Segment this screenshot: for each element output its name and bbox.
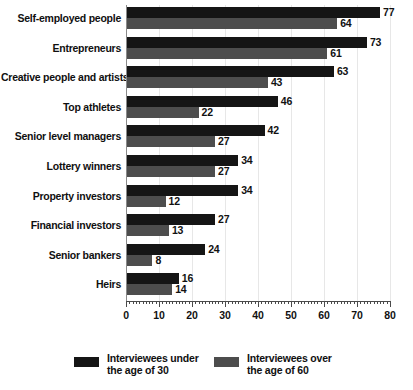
gridline <box>390 5 391 301</box>
x-axis-minor-tick <box>189 301 190 304</box>
x-axis-minor-tick <box>294 301 295 304</box>
x-axis-minor-tick <box>179 301 180 304</box>
bar-group: 4622 <box>126 96 390 120</box>
x-axis-minor-tick <box>327 301 328 304</box>
bar-value-label: 63 <box>337 66 348 77</box>
category-label: Property investors <box>1 190 121 202</box>
legend-item-under-30: Interviewees under the age of 30 <box>74 352 199 376</box>
x-axis-minor-tick <box>172 301 173 304</box>
x-axis-minor-tick <box>364 301 365 304</box>
x-axis-minor-tick <box>370 301 371 304</box>
x-axis-minor-tick <box>321 301 322 304</box>
x-axis: 01020304050607080 <box>126 301 390 329</box>
x-axis-minor-tick <box>275 301 276 304</box>
legend-label-over-60: Interviewees over the age of 60 <box>247 352 332 376</box>
x-axis-major-tick <box>159 301 160 307</box>
x-axis-minor-tick <box>278 301 279 304</box>
x-axis-minor-tick <box>354 301 355 304</box>
x-axis-tick-label: 10 <box>153 309 164 321</box>
bar-under30 <box>126 185 238 196</box>
bar-value-label: 34 <box>241 155 252 166</box>
x-axis-minor-tick <box>166 301 167 304</box>
legend-label-under-30-line1: Interviewees under <box>107 352 199 364</box>
category-label: Financial investors <box>1 219 121 231</box>
legend-label-over-60-line1: Interviewees over <box>247 352 332 364</box>
category-label: Creative people and artists <box>1 71 121 83</box>
bar-group: 1614 <box>126 273 390 297</box>
x-axis-minor-tick <box>133 301 134 304</box>
category-label: Top athletes <box>1 101 121 113</box>
x-axis-minor-tick <box>268 301 269 304</box>
category-label: Lottery winners <box>1 160 121 172</box>
x-axis-minor-tick <box>176 301 177 304</box>
x-axis-major-tick <box>357 301 358 307</box>
x-axis-minor-tick <box>228 301 229 304</box>
bar-over60 <box>126 136 215 147</box>
bar-under30 <box>126 273 179 284</box>
legend-item-over-60: Interviewees over the age of 60 <box>214 352 332 376</box>
x-axis-tick-label: 80 <box>384 309 395 321</box>
x-axis-minor-tick <box>380 301 381 304</box>
bar-over60 <box>126 77 268 88</box>
x-axis-minor-tick <box>304 301 305 304</box>
x-axis-tick-label: 40 <box>252 309 263 321</box>
x-axis-minor-tick <box>149 301 150 304</box>
bar-over60 <box>126 107 199 118</box>
x-axis-minor-tick <box>218 301 219 304</box>
legend-swatch-icon-over-60 <box>214 357 239 367</box>
x-axis-minor-tick <box>169 301 170 304</box>
bar-value-label: 24 <box>208 244 219 255</box>
value-axis-baseline <box>126 5 127 301</box>
x-axis-minor-tick <box>261 301 262 304</box>
x-axis-minor-tick <box>360 301 361 304</box>
bar-value-label: 46 <box>281 96 292 107</box>
bar-over60 <box>126 48 327 59</box>
bar-over60 <box>126 255 152 266</box>
horizontal-bar-chart: Self-employed peopleEntrepreneursCreativ… <box>0 0 413 390</box>
bar-group: 6343 <box>126 66 390 90</box>
x-axis-minor-tick <box>265 301 266 304</box>
bar-value-label: 42 <box>268 125 279 136</box>
bar-value-label: 73 <box>370 37 381 48</box>
bar-over60 <box>126 196 166 207</box>
x-axis-major-tick <box>390 301 391 307</box>
x-axis-minor-tick <box>288 301 289 304</box>
x-axis-minor-tick <box>374 301 375 304</box>
x-axis-major-tick <box>225 301 226 307</box>
x-axis-minor-tick <box>367 301 368 304</box>
x-axis-minor-tick <box>248 301 249 304</box>
x-axis-minor-tick <box>152 301 153 304</box>
bar-value-label: 77 <box>383 7 394 18</box>
category-label: Senior level managers <box>1 130 121 142</box>
bar-under30 <box>126 37 367 48</box>
x-axis-minor-tick <box>182 301 183 304</box>
x-axis-minor-tick <box>341 301 342 304</box>
category-label: Heirs <box>1 278 121 290</box>
x-axis-major-tick <box>126 301 127 307</box>
x-axis-minor-tick <box>143 301 144 304</box>
bar-group: 2713 <box>126 214 390 238</box>
legend-label-under-30: Interviewees under the age of 30 <box>107 352 199 376</box>
x-axis-minor-tick <box>156 301 157 304</box>
bar-group: 248 <box>126 244 390 268</box>
x-axis-minor-tick <box>129 301 130 304</box>
bar-value-label: 12 <box>169 196 180 207</box>
bar-over60 <box>126 284 172 295</box>
x-axis-minor-tick <box>347 301 348 304</box>
bar-value-label: 27 <box>218 214 229 225</box>
bar-group: 4227 <box>126 125 390 149</box>
x-axis-minor-tick <box>308 301 309 304</box>
x-axis-minor-tick <box>205 301 206 304</box>
x-axis-minor-tick <box>331 301 332 304</box>
bar-over60 <box>126 225 169 236</box>
x-axis-minor-tick <box>383 301 384 304</box>
x-axis-minor-tick <box>202 301 203 304</box>
x-axis-minor-tick <box>311 301 312 304</box>
x-axis-minor-tick <box>238 301 239 304</box>
x-axis-minor-tick <box>212 301 213 304</box>
legend-swatch-icon-under-30 <box>74 357 99 367</box>
bar-group: 3412 <box>126 185 390 209</box>
x-axis-minor-tick <box>255 301 256 304</box>
x-axis-minor-tick <box>162 301 163 304</box>
x-axis-minor-tick <box>284 301 285 304</box>
